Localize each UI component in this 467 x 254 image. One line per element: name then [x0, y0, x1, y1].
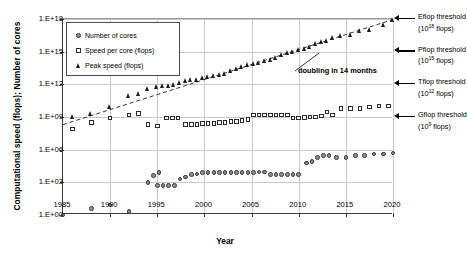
data-point-square: [217, 120, 222, 125]
data-point-triangle: [290, 49, 294, 54]
x-tick-label: 2000: [183, 200, 223, 209]
x-tick-label: 1985: [42, 200, 82, 209]
data-point-square: [176, 116, 181, 121]
data-point-circle: [234, 170, 239, 175]
data-point-circle: [229, 170, 234, 175]
data-point-circle: [279, 172, 284, 177]
square-marker-icon: [76, 48, 85, 53]
threshold-arrow-tflop: [394, 80, 416, 87]
data-point-triangle: [183, 78, 187, 83]
data-point-square: [189, 122, 194, 127]
data-point-circle: [189, 172, 194, 177]
data-point-square: [234, 119, 239, 124]
threshold-title: Pflop threshold: [418, 45, 466, 55]
y-tick-label: 1.E+18: [17, 14, 63, 23]
data-point-square: [339, 106, 344, 111]
data-point-circle: [268, 172, 273, 177]
data-point-circle: [362, 153, 367, 158]
data-point-square: [136, 111, 141, 116]
data-point-triangle: [273, 55, 277, 60]
y-tick-label: 1.E+03: [17, 177, 63, 186]
data-point-triangle: [154, 84, 158, 89]
data-point-square: [377, 104, 382, 109]
data-point-circle: [161, 183, 166, 188]
data-point-square: [108, 116, 113, 121]
data-point-circle: [212, 170, 217, 175]
data-point-triangle: [357, 28, 361, 33]
data-point-square: [164, 116, 169, 121]
data-point-triangle: [348, 32, 352, 37]
data-point-triangle: [251, 61, 255, 66]
data-point-circle: [391, 151, 396, 156]
data-point-triangle: [136, 91, 140, 96]
threshold-value: (1012 flops): [418, 87, 466, 99]
threshold-label-gflop: Gflop threshold(109 flops): [418, 110, 467, 132]
threshold-value: (1018 flops): [418, 22, 466, 34]
threshold-label-tflop: Tflop threshold(1012 flops): [418, 77, 466, 99]
data-point-circle: [296, 172, 301, 177]
data-point-square: [319, 114, 324, 119]
data-point-square: [146, 122, 151, 127]
data-point-triangle: [228, 68, 232, 73]
circle-marker-icon: [76, 33, 85, 38]
data-point-square: [200, 121, 205, 126]
data-point-triangle: [279, 52, 283, 57]
data-point-square: [206, 121, 211, 126]
data-point-triangle: [338, 33, 342, 38]
threshold-title: Gflop threshold: [418, 110, 467, 120]
data-point-square: [302, 115, 307, 120]
data-point-triangle: [107, 104, 111, 109]
data-point-circle: [334, 155, 339, 160]
data-point-square: [240, 118, 245, 123]
data-point-square: [89, 120, 94, 125]
data-point-circle: [304, 161, 309, 166]
data-point-triangle: [166, 83, 170, 88]
data-point-triangle: [222, 71, 226, 76]
data-point-triangle: [285, 50, 289, 55]
data-point-triangle: [188, 77, 192, 82]
data-point-square: [279, 113, 284, 118]
data-point-triangle: [367, 27, 371, 32]
data-point-square: [262, 113, 267, 118]
data-point-square: [325, 110, 330, 115]
data-point-square: [268, 113, 273, 118]
data-point-circle: [310, 159, 315, 164]
data-point-circle: [321, 153, 326, 158]
data-point-triangle: [313, 41, 317, 46]
data-point-circle: [315, 155, 320, 160]
data-point-square: [251, 113, 256, 118]
data-point-square: [257, 113, 262, 118]
data-point-triangle: [381, 22, 385, 27]
data-point-square: [212, 121, 217, 126]
data-point-square: [274, 113, 279, 118]
data-point-circle: [344, 155, 349, 160]
data-point-triangle: [319, 39, 323, 44]
data-point-square: [367, 105, 372, 110]
triangle-marker-icon: [76, 63, 85, 68]
data-point-square: [155, 124, 160, 129]
data-point-triangle: [217, 72, 221, 77]
data-point-circle: [246, 170, 251, 175]
data-point-triangle: [234, 66, 238, 71]
y-tick-label: 1.E+15: [17, 47, 63, 56]
data-point-triangle: [200, 75, 204, 80]
data-point-circle: [327, 153, 332, 158]
threshold-title: Eflop threshold: [418, 12, 466, 22]
threshold-arrow-gflop: [394, 113, 416, 120]
x-axis-title: Year: [60, 236, 390, 246]
data-point-circle: [172, 183, 177, 188]
data-point-square: [358, 106, 363, 111]
y-tick-label: 1.E+06: [17, 145, 63, 154]
data-point-triangle: [171, 82, 175, 87]
data-point-square: [291, 116, 296, 121]
data-point-square: [308, 115, 313, 120]
data-point-circle: [251, 170, 256, 175]
data-point-circle: [353, 153, 358, 158]
data-point-circle: [151, 173, 156, 178]
x-tick-label: 2010: [278, 200, 318, 209]
data-point-triangle: [330, 35, 334, 40]
data-point-triangle: [302, 46, 306, 51]
x-tick-label: 2015: [325, 200, 365, 209]
data-point-square: [229, 119, 234, 124]
